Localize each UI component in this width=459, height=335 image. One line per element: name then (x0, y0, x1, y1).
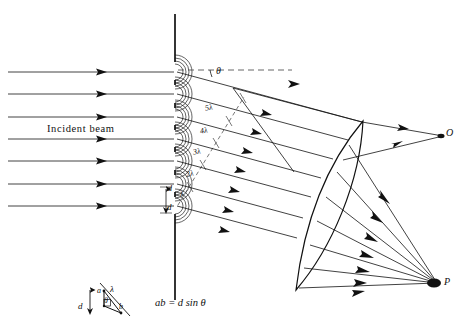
lens-body (296, 121, 363, 290)
inset-wavelength-label: λ (110, 285, 114, 294)
rays-to-focus-O (233, 88, 443, 172)
theta-angle-arc (210, 70, 212, 77)
incident-rays (8, 72, 174, 206)
figure-canvas (0, 0, 459, 335)
rays-to-focus-P (299, 145, 437, 288)
diffracted-ray (177, 184, 303, 218)
slit-spacing-label-upper: d (168, 185, 172, 193)
focus-point-O-label: O (446, 128, 453, 138)
ray-to-P (337, 172, 437, 283)
diffracted-ray (177, 206, 297, 238)
inset-triangle (87, 283, 130, 316)
ray-to-O-incoming (233, 88, 362, 122)
ray-to-P (326, 197, 437, 283)
converging-lens (296, 121, 363, 290)
slit-spacing-label: d (167, 203, 172, 212)
ray-to-P (317, 221, 437, 283)
ray-to-P (299, 283, 437, 288)
path-difference-label-5lambda: 5λ (204, 103, 213, 112)
inset-vertex-a-label: a (97, 287, 101, 295)
diffracted-ray (177, 139, 321, 178)
path-difference-label-4lambda: 4λ (199, 126, 208, 135)
optical-axis-reference (178, 70, 292, 77)
incident-beam-label: Incident beam (47, 124, 115, 135)
diffraction-grating-figure: Incident beam θ 5λ 4λ 3λ 2λ λ d d O P a … (0, 0, 459, 335)
diffracted-rays-to-lens (177, 72, 362, 238)
inset-spacing-label: d (78, 302, 83, 311)
rays-to-O-arrowheads (288, 80, 409, 148)
ray-to-P (349, 145, 437, 283)
focus-point-P-blob (427, 279, 441, 288)
ray-to-P (304, 268, 437, 283)
theta-angle-label: θ (216, 66, 221, 76)
inset-vertex-b-label: b (119, 303, 123, 311)
rays-to-P-arrowheads (352, 190, 390, 297)
ray-to-O-incoming (233, 88, 294, 172)
diffracted-ray-arrowheads (218, 109, 272, 233)
focus-point-P-label: P (444, 277, 450, 287)
path-difference-label-2lambda: 2λ (185, 169, 194, 178)
diffracted-ray (177, 161, 311, 197)
focus-point-O-blob (438, 134, 445, 138)
ray-to-P (310, 245, 437, 283)
inset-theta-label: θ (104, 297, 108, 305)
path-difference-formula: ab = d sin θ (155, 298, 206, 309)
path-difference-label-3lambda: 3λ (192, 147, 201, 156)
